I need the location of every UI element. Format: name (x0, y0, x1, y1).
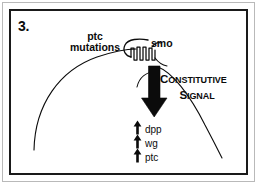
smo-label: smo (151, 38, 173, 49)
constitutive-signal-line-1: CONSTITUTIVE (160, 70, 246, 86)
constitutive-initial-cap: C (160, 73, 168, 85)
panel-number: 3. (18, 19, 29, 33)
gene-label-ptc: ptc (145, 153, 158, 163)
cell-membrane-left-arc (34, 49, 136, 150)
ptc-mutations-line-2: mutations (70, 41, 120, 53)
upregulation-arrow-icon (134, 149, 142, 163)
constitutive-small-caps: ONSTITUTIVE (168, 75, 226, 85)
gene-label-dpp: dpp (145, 125, 162, 135)
signal-small-caps: IGNAL (187, 91, 215, 101)
figure-panel: 3. ptc mutations smo CONSTITUTIVE SIGNAL… (0, 0, 257, 184)
ptc-mutations-label: ptc mutations (61, 31, 129, 54)
gene-label-wg: wg (145, 139, 158, 149)
constitutive-signal-label: CONSTITUTIVE SIGNAL (160, 70, 246, 103)
signal-initial-cap: S (179, 89, 187, 101)
ptc-mutations-line-1: ptc (87, 30, 103, 42)
constitutive-signal-line-2: SIGNAL (160, 86, 234, 102)
upregulation-arrow-icon (134, 121, 142, 135)
upregulation-arrow-icon (134, 135, 142, 149)
